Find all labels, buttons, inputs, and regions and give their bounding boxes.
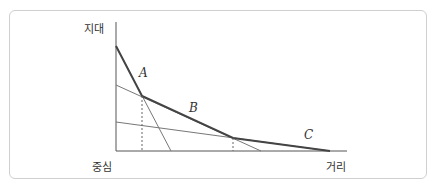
x-axis-label: 거리 xyxy=(326,158,346,174)
label-a: A xyxy=(138,66,148,80)
label-b: B xyxy=(188,101,198,115)
bid-rent-diagram: A B C xyxy=(0,0,434,186)
label-c: C xyxy=(304,128,313,142)
origin-label: 중심 xyxy=(92,158,112,174)
y-axis-label: 지대 xyxy=(84,20,104,36)
bid-rent-envelope xyxy=(116,46,330,151)
